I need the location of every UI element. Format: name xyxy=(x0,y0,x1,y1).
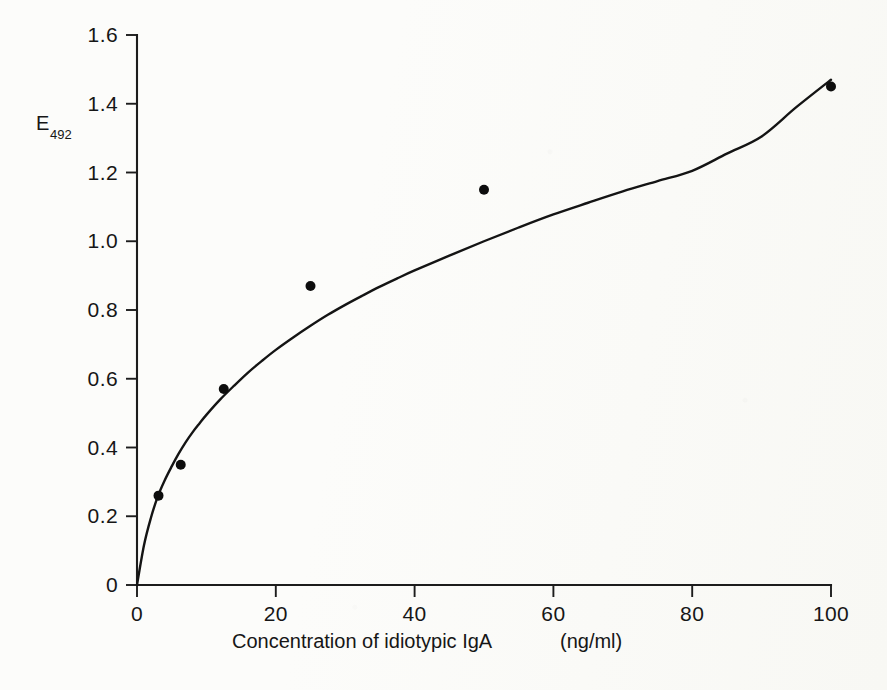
y-axis-title: E 492 xyxy=(36,112,72,142)
x-axis-title-units: (ng/ml) xyxy=(560,630,622,652)
x-tick-label-100: 100 xyxy=(813,602,849,625)
data-point-2 xyxy=(219,384,229,394)
figure-canvas: 00.20.40.60.81.01.21.41.6 020406080100 E… xyxy=(0,0,887,690)
y-tick-label-0.4: 0.4 xyxy=(88,436,118,459)
x-axis-title-main: Concentration of idiotypic IgA xyxy=(232,630,493,652)
y-tick-label-1.0: 1.0 xyxy=(88,229,118,252)
data-point-3 xyxy=(306,281,316,291)
data-point-4 xyxy=(479,185,489,195)
x-axis-tick-labels: 020406080100 xyxy=(131,602,849,625)
data-point-group xyxy=(154,82,836,501)
data-point-1 xyxy=(176,460,186,470)
y-tick-label-0.8: 0.8 xyxy=(88,298,118,321)
y-tick-label-0: 0 xyxy=(106,573,118,596)
y-axis-tick-labels: 00.20.40.60.81.01.21.41.6 xyxy=(88,23,118,596)
x-tick-label-40: 40 xyxy=(403,602,427,625)
y-tick-label-1.2: 1.2 xyxy=(88,161,118,184)
y-tick-label-1.4: 1.4 xyxy=(88,92,118,115)
x-tick-label-60: 60 xyxy=(541,602,565,625)
y-axis-title-base: E xyxy=(36,112,49,134)
x-tick-label-20: 20 xyxy=(264,602,288,625)
fitted-curve xyxy=(137,80,831,585)
data-point-5 xyxy=(826,82,836,92)
y-tick-label-1.6: 1.6 xyxy=(88,23,118,46)
x-tick-label-80: 80 xyxy=(680,602,704,625)
x-axis-title: Concentration of idiotypic IgA (ng/ml) xyxy=(232,630,622,652)
x-axis-ticks xyxy=(137,585,831,597)
data-point-0 xyxy=(154,491,164,501)
x-tick-label-0: 0 xyxy=(131,602,143,625)
y-tick-label-0.6: 0.6 xyxy=(88,367,118,390)
y-axis-ticks xyxy=(126,35,137,585)
y-tick-label-0.2: 0.2 xyxy=(88,504,118,527)
ela-standard-curve-chart: 00.20.40.60.81.01.21.41.6 020406080100 E… xyxy=(0,0,887,690)
y-axis-title-subscript: 492 xyxy=(50,127,72,142)
